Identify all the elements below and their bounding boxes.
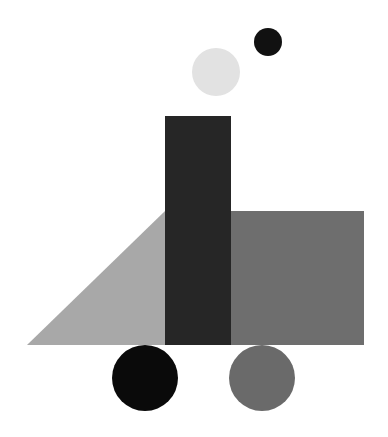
smoke-large-circle — [192, 48, 240, 96]
wheel-right-circle — [229, 345, 295, 411]
chimney-rectangle — [165, 116, 231, 345]
geometric-train-scene — [0, 0, 388, 437]
smoke-small-circle — [254, 28, 282, 56]
cab-rectangle — [231, 211, 364, 345]
wheel-left-circle — [112, 345, 178, 411]
